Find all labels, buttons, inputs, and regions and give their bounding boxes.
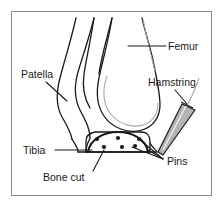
pin-dot bbox=[120, 145, 124, 149]
figure-container: Femur Patella Hamstring Tibia Bone cut P… bbox=[0, 0, 224, 209]
label-hamstring: Hamstring bbox=[148, 76, 196, 88]
label-tibia: Tibia bbox=[23, 144, 46, 156]
label-patella: Patella bbox=[21, 68, 53, 80]
label-bone-cut: Bone cut bbox=[43, 171, 85, 183]
knee-diagram: Femur Patella Hamstring Tibia Bone cut P… bbox=[0, 0, 224, 209]
pin-dot bbox=[95, 137, 99, 141]
pin-dot bbox=[102, 145, 106, 149]
pin-dot bbox=[116, 136, 120, 140]
label-pins: Pins bbox=[167, 155, 187, 167]
label-femur: Femur bbox=[168, 40, 199, 52]
